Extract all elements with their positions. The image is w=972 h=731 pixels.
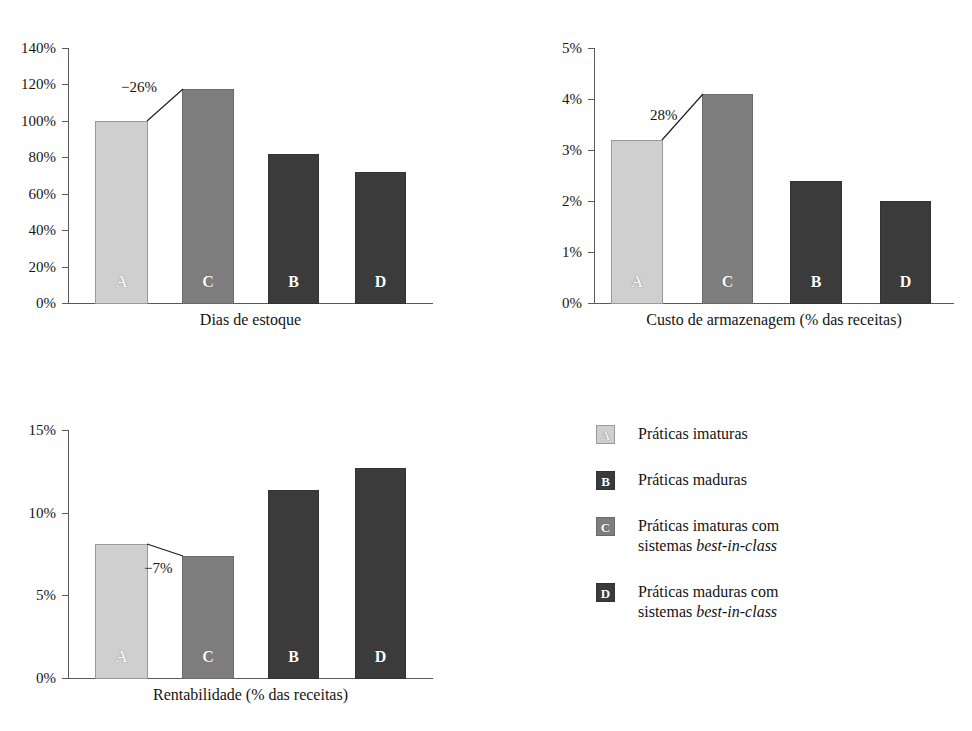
chart1-y-axis — [68, 48, 69, 304]
chart3-y-axis — [68, 430, 69, 679]
legend-label-D: Práticas maduras com sistemas best-in-cl… — [638, 582, 778, 622]
y-tick-label: 5% — [524, 41, 582, 56]
y-tick-label: 15% — [0, 423, 56, 438]
chart1-bar-C-letter: C — [183, 273, 233, 291]
chart2-bar-C: C — [702, 94, 753, 304]
y-tick-mark — [62, 303, 68, 304]
chart1-delta-connector — [0, 0, 480, 345]
y-tick-label: 140% — [0, 41, 56, 56]
y-tick-label: 1% — [524, 245, 582, 260]
legend-swatch-A-letter: A — [597, 426, 614, 445]
chart2-bar-A-letter: A — [612, 273, 662, 291]
chart1-x-title: Dias de estoque — [68, 311, 433, 329]
chart-custo-de-armazenagem: 0%1%2%3%4%5% A C B D 28% Custo de armaze… — [492, 0, 972, 345]
legend-item-B: B Práticas maduras — [596, 470, 747, 490]
legend-item-D: D Práticas maduras com sistemas best-in-… — [596, 582, 778, 622]
y-tick-mark — [62, 678, 68, 679]
chart1-bar-B-letter: B — [269, 273, 318, 291]
legend-swatch-D-icon: D — [596, 583, 615, 602]
chart3-bar-C-letter: C — [183, 648, 233, 666]
y-tick-mark — [62, 157, 68, 158]
y-tick-label: 3% — [524, 143, 582, 158]
chart1-delta-label: −26% — [121, 80, 157, 95]
y-tick-mark — [62, 230, 68, 231]
chart-rentabilidade: 0%5%10%15% A C B D −7% Rentabilidade (% … — [0, 400, 480, 731]
legend-label-emphasis: best-in-class — [696, 603, 777, 620]
y-tick-mark — [62, 84, 68, 85]
chart1-bar-B: B — [268, 154, 319, 304]
y-tick-mark — [588, 48, 594, 49]
legend-label-C: Práticas imaturas com sistemas best-in-c… — [638, 516, 779, 556]
chart1-bar-D-letter: D — [356, 273, 405, 291]
y-tick-mark — [62, 194, 68, 195]
chart2-bar-B: B — [790, 181, 842, 304]
chart1-bar-A: A — [95, 121, 148, 304]
y-tick-mark — [588, 201, 594, 202]
chart1-bar-C: C — [182, 89, 234, 304]
y-tick-mark — [62, 48, 68, 49]
y-tick-mark — [62, 430, 68, 431]
y-tick-mark — [588, 99, 594, 100]
chart2-bar-B-letter: B — [791, 273, 841, 291]
y-tick-mark — [62, 121, 68, 122]
legend-swatch-C-icon: C — [596, 517, 615, 536]
legend-swatch-A-icon: A — [596, 425, 615, 444]
chart3-bar-A-letter: A — [96, 648, 147, 666]
chart3-delta-connector — [0, 400, 480, 731]
y-tick-label: 40% — [0, 223, 56, 238]
legend-swatch-D-letter: D — [597, 584, 614, 603]
y-tick-label: 120% — [0, 77, 56, 92]
y-tick-label: 0% — [524, 296, 582, 311]
y-tick-mark — [588, 150, 594, 151]
chart1-bar-D: D — [355, 172, 406, 304]
legend-item-C: C Práticas imaturas com sistemas best-in… — [596, 516, 779, 556]
y-tick-label: 80% — [0, 150, 56, 165]
chart1-bar-A-letter: A — [96, 273, 147, 291]
chart3-bar-D: D — [355, 468, 406, 679]
y-tick-mark — [588, 252, 594, 253]
y-tick-label: 4% — [524, 92, 582, 107]
y-tick-label: 100% — [0, 114, 56, 129]
chart2-bar-A: A — [611, 140, 663, 304]
legend-item-A: A Práticas imaturas — [596, 424, 748, 444]
legend-swatch-B-letter: B — [597, 472, 614, 491]
legend-label-B: Práticas maduras — [638, 470, 747, 490]
chart2-bar-D-letter: D — [881, 273, 930, 291]
chart3-bar-B-letter: B — [269, 648, 318, 666]
y-tick-label: 60% — [0, 187, 56, 202]
chart-dias-de-estoque: 0%20%40%60%80%100%120%140% A C B D −26% … — [0, 0, 480, 345]
y-tick-mark — [62, 513, 68, 514]
chart2-x-title: Custo de armazenagem (% das receitas) — [584, 311, 964, 329]
y-tick-label: 0% — [0, 671, 56, 686]
chart2-y-axis — [594, 48, 595, 304]
chart-legend: A Práticas imaturas B Práticas maduras C… — [596, 424, 936, 639]
y-tick-label: 5% — [0, 588, 56, 603]
legend-label-emphasis: best-in-class — [696, 537, 777, 554]
chart3-delta-label: −7% — [144, 561, 172, 576]
chart2-bar-D: D — [880, 201, 931, 304]
y-tick-label: 20% — [0, 260, 56, 275]
y-tick-mark — [588, 303, 594, 304]
y-tick-mark — [62, 595, 68, 596]
y-tick-mark — [62, 267, 68, 268]
chart2-delta-label: 28% — [650, 108, 678, 123]
y-tick-label: 10% — [0, 506, 56, 521]
chart3-bar-C: C — [182, 556, 234, 679]
y-tick-label: 0% — [0, 296, 56, 311]
chart3-bar-D-letter: D — [356, 648, 405, 666]
chart3-bar-A: A — [95, 544, 148, 679]
chart3-bar-B: B — [268, 490, 319, 679]
chart3-x-title: Rentabilidade (% das receitas) — [68, 686, 433, 704]
legend-label-A: Práticas imaturas — [638, 424, 748, 444]
legend-swatch-C-letter: C — [597, 518, 614, 537]
legend-swatch-B-icon: B — [596, 471, 615, 490]
chart2-bar-C-letter: C — [703, 273, 752, 291]
y-tick-label: 2% — [524, 194, 582, 209]
